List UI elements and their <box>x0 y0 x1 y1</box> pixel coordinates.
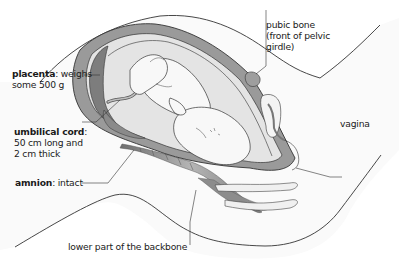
pubic-bone-line-3: girdle) <box>266 41 330 52</box>
umbilical-cord-desc-3: 2 cm thick <box>14 148 87 159</box>
amnion-desc: : intact <box>52 177 83 188</box>
backbone-text: lower part of the backbone <box>68 241 187 252</box>
pubic-bone-shape <box>245 72 260 87</box>
placenta-desc: : weighs <box>55 68 92 79</box>
pubic-bone-line-2: (front of pelvic <box>266 30 330 41</box>
label-placenta: placenta: weighs some 500 g <box>12 68 92 90</box>
placenta-term: placenta <box>12 68 55 79</box>
pubic-bone-line-1: pubic bone <box>266 19 330 30</box>
umbilical-cord-desc-2: 50 cm long and <box>14 137 87 148</box>
label-umbilical-cord: umbilical cord: 50 cm long and 2 cm thic… <box>14 126 87 159</box>
placenta-desc-2: some 500 g <box>12 79 92 90</box>
vagina-text: vagina <box>340 118 370 129</box>
umbilical-cord-term: umbilical cord <box>14 126 84 137</box>
label-amnion: amnion: intact <box>15 177 83 188</box>
label-backbone: lower part of the backbone <box>68 241 187 252</box>
amnion-term: amnion <box>15 177 52 188</box>
label-vagina: vagina <box>340 118 370 129</box>
label-pubic-bone: pubic bone (front of pelvic girdle) <box>266 19 330 52</box>
umbilical-cord-colon: : <box>84 126 87 137</box>
